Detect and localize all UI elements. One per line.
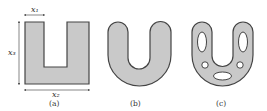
right-round-hole [237,62,243,68]
figure-canvas: x₁ x₃ x₂ (a) (b) (c) [0,0,267,111]
rectangular-u-shape [25,22,89,84]
caption-b: (b) [130,99,141,108]
right-oval-hole [239,32,248,52]
bottom-dimension-label: x₂ [52,90,60,99]
caption-a: (a) [49,99,59,108]
left-dimension-label: x₃ [8,48,16,57]
left-oval-hole [198,32,207,52]
panel-c: (c) [192,22,253,108]
rounded-u-shape [108,22,171,87]
panel-b: (b) [108,22,171,109]
panel-a: x₁ x₃ x₂ (a) [8,5,89,108]
left-round-hole [202,62,208,68]
caption-c: (c) [216,99,226,108]
top-dimension-label: x₁ [31,5,39,14]
bottom-oval-hole [214,72,232,80]
